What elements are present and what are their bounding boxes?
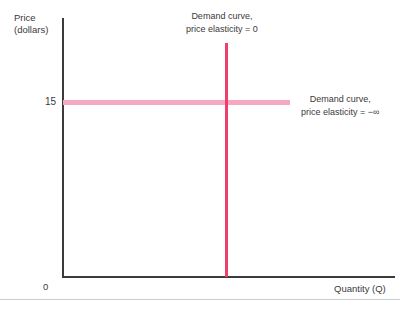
y-axis-title-line1: Price: [14, 12, 36, 23]
demand-elasticity-chart: Price (dollars) 15 0 Quantity (Q) Demand…: [0, 0, 400, 313]
annotation-elastic-line1: Demand curve,: [310, 94, 371, 104]
y-axis-title: Price (dollars): [14, 12, 48, 36]
perfectly-elastic-demand-curve: [63, 100, 290, 105]
x-axis-line: [62, 276, 395, 278]
annotation-elastic-curve: Demand curve, price elasticity = −∞: [301, 93, 379, 118]
bottom-divider: [0, 299, 400, 300]
y-axis-line: [62, 18, 64, 278]
origin-label: 0: [43, 281, 48, 292]
y-tick-label-15: 15: [36, 96, 56, 107]
perfectly-inelastic-demand-curve: [225, 43, 228, 277]
annotation-elastic-line2: price elasticity = −∞: [301, 106, 379, 119]
annotation-inelastic-line1: Demand curve,: [191, 11, 252, 21]
y-axis-title-line2: (dollars): [14, 24, 48, 35]
x-axis-title: Quantity (Q): [334, 283, 386, 294]
annotation-inelastic-curve: Demand curve, price elasticity = 0: [186, 10, 258, 35]
annotation-inelastic-line2: price elasticity = 0: [186, 23, 258, 36]
